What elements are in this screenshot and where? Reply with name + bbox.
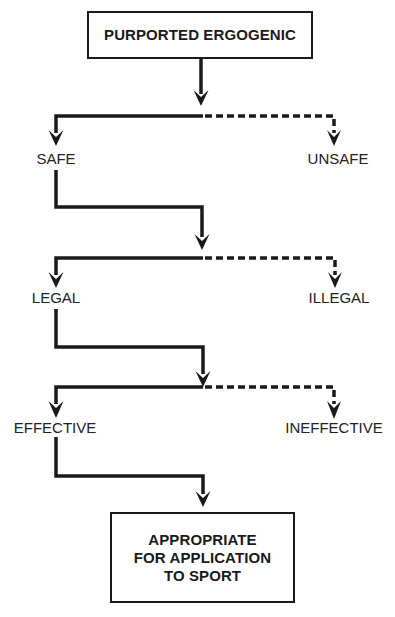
end-node-line-3: TO SPORT — [164, 567, 241, 585]
arrow-legal-to-decision-3 — [56, 309, 211, 387]
label-effective: EFFECTIVE — [14, 420, 97, 436]
arrow-safe-to-decision-2 — [56, 170, 210, 250]
decision-1-branch-unsafe — [205, 116, 341, 146]
start-node-box: PURPORTED ERGOGENIC — [87, 11, 313, 59]
start-node-label: PURPORTED ERGOGENIC — [104, 26, 296, 44]
label-ineffective: INEFFECTIVE — [285, 420, 383, 436]
label-illegal: ILLEGAL — [309, 290, 370, 306]
end-node-line-1: APPROPRIATE — [148, 531, 256, 549]
decision-2-branch-illegal — [205, 258, 342, 288]
label-unsafe: UNSAFE — [308, 151, 369, 167]
arrow-effective-to-end — [56, 437, 211, 507]
decision-1-branch-safe — [49, 116, 204, 146]
label-safe: SAFE — [36, 151, 75, 167]
decision-2-branch-legal — [49, 258, 204, 288]
end-node-box: APPROPRIATE FOR APPLICATION TO SPORT — [110, 512, 295, 603]
decision-3-branch-ineffective — [205, 387, 341, 419]
label-legal: LEGAL — [32, 290, 80, 306]
decision-3-branch-effective — [49, 387, 204, 418]
end-node-line-2: FOR APPLICATION — [134, 549, 271, 567]
arrow-start-to-decision-1 — [194, 59, 209, 106]
flowchart: PURPORTED ERGOGENIC SAFE UNSAFE LEGAL IL… — [0, 0, 395, 617]
